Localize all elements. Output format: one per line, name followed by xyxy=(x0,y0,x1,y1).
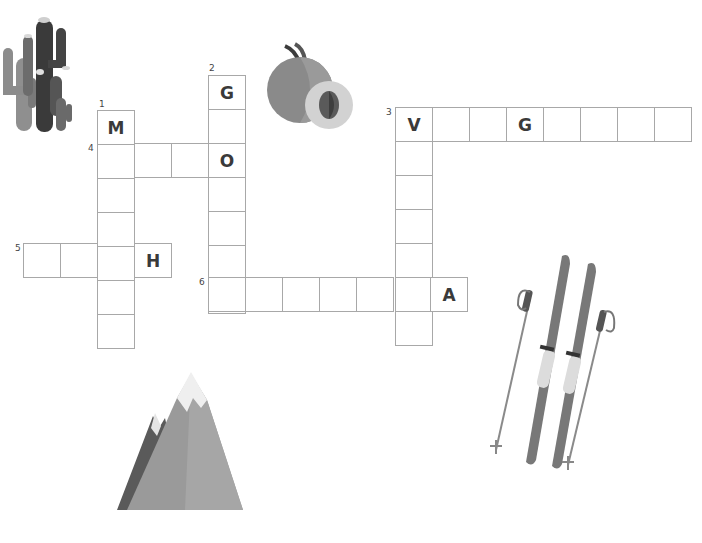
crossword-cell[interactable] xyxy=(395,175,433,210)
crossword-cell[interactable] xyxy=(245,277,283,312)
crossword-cell[interactable]: A xyxy=(430,277,468,312)
crossword-cell[interactable] xyxy=(208,245,246,280)
crossword-cell[interactable] xyxy=(543,107,581,142)
crossword-cell[interactable] xyxy=(208,277,246,312)
clue-number: 6 xyxy=(199,277,205,287)
crossword-cell[interactable] xyxy=(208,109,246,144)
clue-number: 2 xyxy=(209,63,215,73)
crossword-cell[interactable] xyxy=(97,314,135,349)
crossword-cell[interactable]: G xyxy=(208,75,246,110)
clue-number: 1 xyxy=(99,99,105,109)
crossword-cell[interactable]: G xyxy=(506,107,544,142)
crossword-cell[interactable] xyxy=(97,178,135,213)
crossword-cell[interactable] xyxy=(469,107,507,142)
crossword-cell[interactable] xyxy=(97,280,135,315)
mountain-illustration xyxy=(115,368,245,513)
crossword-cell[interactable] xyxy=(356,277,394,312)
peach-illustration xyxy=(265,42,360,137)
crossword-cell[interactable]: V xyxy=(395,107,433,142)
crossword-cell[interactable] xyxy=(319,277,357,312)
crossword-cell[interactable] xyxy=(282,277,320,312)
crossword-cell[interactable] xyxy=(97,212,135,247)
crossword-cell[interactable]: H xyxy=(134,243,172,278)
crossword-cell[interactable] xyxy=(395,277,433,312)
clue-number: 5 xyxy=(15,243,21,253)
crossword-cell[interactable] xyxy=(432,107,470,142)
crossword-cell[interactable] xyxy=(580,107,618,142)
crossword-cell[interactable] xyxy=(97,144,135,179)
crossword-cell[interactable] xyxy=(171,143,209,178)
skis-illustration xyxy=(488,250,623,475)
crossword-cell[interactable] xyxy=(134,143,172,178)
crossword-cell[interactable] xyxy=(60,243,98,278)
clue-number: 4 xyxy=(88,143,94,153)
crossword-cell[interactable] xyxy=(395,209,433,244)
crossword-cell[interactable]: M xyxy=(97,110,135,145)
crossword-cell[interactable] xyxy=(97,246,135,281)
crossword-cell[interactable] xyxy=(208,177,246,212)
crossword-cell[interactable] xyxy=(654,107,692,142)
crossword-cell[interactable] xyxy=(617,107,655,142)
crossword-cell[interactable] xyxy=(395,311,433,346)
clue-number: 3 xyxy=(386,107,392,117)
crossword-cell[interactable]: O xyxy=(208,143,246,178)
crossword-cell[interactable] xyxy=(208,211,246,246)
crossword-cell[interactable] xyxy=(395,243,433,278)
crossword-cell[interactable] xyxy=(395,141,433,176)
crossword-cell[interactable] xyxy=(23,243,61,278)
cactus-illustration xyxy=(0,8,80,133)
